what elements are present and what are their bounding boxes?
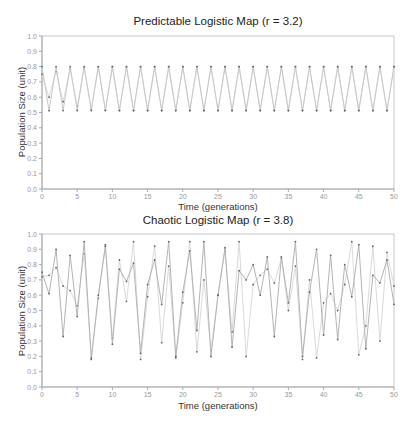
y-tick-label: 0.4 xyxy=(27,124,37,131)
data-point xyxy=(55,66,57,68)
data-point xyxy=(393,66,395,68)
data-point xyxy=(252,284,254,286)
x-tick-label: 40 xyxy=(320,193,328,200)
y-tick-label: 0.9 xyxy=(27,246,37,253)
data-point xyxy=(224,66,226,68)
data-point xyxy=(273,336,275,338)
data-point xyxy=(337,66,339,68)
data-point xyxy=(330,110,332,112)
data-point xyxy=(337,310,339,312)
data-point xyxy=(217,294,219,296)
data-point xyxy=(41,276,43,278)
data-point xyxy=(302,110,304,112)
data-point xyxy=(76,316,78,318)
data-point xyxy=(69,290,71,292)
data-point xyxy=(288,302,290,304)
data-point xyxy=(330,293,332,295)
y-tick-label: 0.3 xyxy=(27,338,37,345)
x-tick-label: 10 xyxy=(109,391,117,398)
data-point xyxy=(309,66,311,68)
data-point xyxy=(55,267,57,269)
data-point xyxy=(62,336,64,338)
plot-predictable: Predictable Logistic Map (r = 3.2) 0.00.… xyxy=(16,15,398,212)
x-axis-label: Time (generations) xyxy=(178,400,257,411)
plot-area xyxy=(42,234,394,387)
series-line xyxy=(42,242,394,358)
data-point xyxy=(295,241,297,243)
data-point xyxy=(48,110,50,112)
data-point xyxy=(55,248,57,250)
data-point xyxy=(210,356,212,358)
data-point xyxy=(245,279,247,281)
data-point xyxy=(245,110,247,112)
data-point xyxy=(309,291,311,293)
data-point xyxy=(147,296,149,298)
data-point xyxy=(358,244,360,246)
data-point xyxy=(97,66,99,68)
x-tick-label: 45 xyxy=(355,193,363,200)
data-point xyxy=(83,66,85,68)
x-tick-label: 50 xyxy=(390,391,398,398)
chart-title: Predictable Logistic Map (r = 3.2) xyxy=(133,15,302,27)
y-axis-label: Population Size (unit) xyxy=(16,67,27,157)
data-point xyxy=(365,348,367,350)
data-point xyxy=(386,110,388,112)
data-point xyxy=(41,66,43,68)
y-tick-label: 0.2 xyxy=(27,155,37,162)
x-tick-label: 35 xyxy=(285,193,293,200)
x-tick-label: 0 xyxy=(40,193,44,200)
data-point xyxy=(280,256,282,258)
x-tick-label: 15 xyxy=(144,391,152,398)
data-point xyxy=(379,340,381,342)
data-point xyxy=(344,264,346,266)
data-point xyxy=(386,251,388,253)
data-point xyxy=(175,110,177,112)
data-point xyxy=(48,274,50,276)
data-point xyxy=(288,110,290,112)
x-tick-label: 25 xyxy=(214,193,222,200)
data-point xyxy=(245,356,247,358)
x-tick-label: 35 xyxy=(285,391,293,398)
data-point xyxy=(62,285,64,287)
data-point xyxy=(104,245,106,247)
data-point xyxy=(147,110,149,112)
data-point xyxy=(126,66,128,68)
series-line xyxy=(42,67,394,111)
y-tick-label: 0.2 xyxy=(27,353,37,360)
data-point xyxy=(133,262,135,264)
data-point xyxy=(83,241,85,243)
data-point xyxy=(175,356,177,358)
data-point xyxy=(365,325,367,327)
data-point xyxy=(203,279,205,281)
x-tick-label: 50 xyxy=(390,193,398,200)
data-point xyxy=(168,265,170,267)
data-point xyxy=(196,351,198,353)
x-tick-label: 0 xyxy=(40,391,44,398)
chart-title: Chaotic Logistic Map (r = 3.8) xyxy=(143,214,294,226)
data-point xyxy=(147,284,149,286)
x-tick-label: 5 xyxy=(75,391,79,398)
data-point xyxy=(252,66,254,68)
data-point xyxy=(323,334,325,336)
data-point xyxy=(126,281,128,283)
data-point xyxy=(196,329,198,331)
data-point xyxy=(62,110,64,112)
data-point xyxy=(323,302,325,304)
data-point xyxy=(351,66,353,68)
data-point xyxy=(330,255,332,257)
data-point xyxy=(48,293,50,295)
x-tick-label: 45 xyxy=(355,391,363,398)
data-point xyxy=(189,241,191,243)
y-tick-label: 0.5 xyxy=(27,307,37,314)
y-tick-label: 0.4 xyxy=(27,322,37,329)
y-tick-label: 0.8 xyxy=(27,261,37,268)
data-point xyxy=(224,247,226,249)
data-point xyxy=(280,66,282,68)
data-point xyxy=(133,241,135,243)
x-tick-label: 5 xyxy=(75,193,79,200)
data-point xyxy=(372,245,374,247)
y-tick-label: 0.1 xyxy=(27,368,37,375)
y-tick-label: 0.3 xyxy=(27,140,37,147)
data-point xyxy=(69,255,71,257)
y-tick-label: 0.5 xyxy=(27,109,37,116)
